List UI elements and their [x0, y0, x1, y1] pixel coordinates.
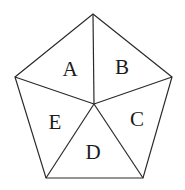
region-label-c: C: [130, 107, 144, 131]
divider-top: [93, 14, 94, 104]
region-label-a: A: [62, 57, 78, 81]
pentagon-diagram: A B C D E: [0, 0, 185, 190]
region-label-d: D: [85, 140, 100, 164]
region-label-e: E: [49, 110, 62, 134]
divider-left: [15, 77, 94, 104]
divider-right: [94, 77, 172, 104]
region-label-b: B: [115, 55, 129, 79]
